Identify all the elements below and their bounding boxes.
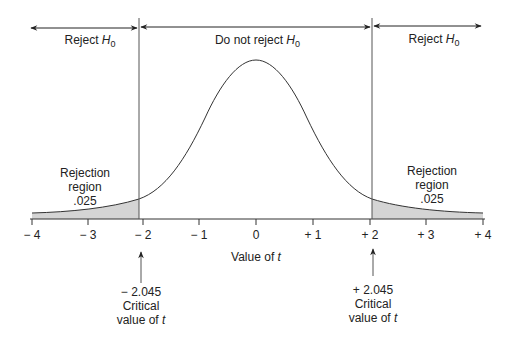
right-rejection-region-label: Rejection region .025: [402, 164, 462, 206]
tick-label: − 1: [184, 228, 214, 242]
right-critical-value-label: + 2.045 Critical value of t: [332, 283, 414, 325]
reject-h0-left-label: Reject H0: [50, 33, 130, 51]
tick-label: − 3: [73, 228, 103, 242]
t-distribution-diagram: Reject H0 Do not reject H0 Reject H0 Rej…: [0, 0, 508, 340]
left-rejection-region-label: Rejection region .025: [55, 166, 115, 208]
reject-h0-right-label: Reject H0: [394, 32, 474, 50]
tick-marks: [32, 219, 483, 225]
do-not-reject-h0-label: Do not reject H0: [195, 33, 320, 51]
tick-label: 0: [241, 228, 271, 242]
tick-label: + 1: [298, 228, 328, 242]
tick-label: − 4: [17, 228, 47, 242]
tick-label: + 2: [355, 228, 385, 242]
left-critical-value-label: − 2.045 Critical value of t: [100, 285, 182, 327]
tick-label: + 4: [468, 228, 498, 242]
tick-label: + 3: [411, 228, 441, 242]
tick-label: − 2: [128, 228, 158, 242]
x-axis-title: Value of t: [216, 250, 296, 264]
